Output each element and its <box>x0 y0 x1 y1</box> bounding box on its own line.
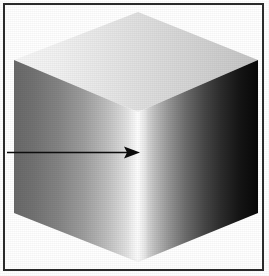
cube-illustration <box>0 0 269 276</box>
figure-frame <box>0 0 269 276</box>
center-vertical-edge <box>129 110 147 262</box>
figure-root: Shaded cube with arrow pointing at centr… <box>0 0 269 276</box>
